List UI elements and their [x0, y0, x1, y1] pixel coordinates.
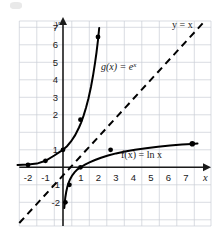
logarithm-label: f(x) = ln x — [121, 149, 162, 161]
x-tick-2: 2 — [96, 172, 101, 183]
y-tick-5: 5 — [53, 57, 58, 68]
axes — [19, 17, 211, 226]
y-tick-neg2: -2 — [52, 197, 60, 208]
figure-page: 7 6 5 4 3 2 1 -1 -2 -2 -1 1 2 3 4 5 6 7 — [0, 0, 217, 246]
x-tick-labels: -2 -1 1 2 3 4 5 6 7 — [24, 172, 189, 183]
graph-canvas: 7 6 5 4 3 2 1 -1 -2 -2 -1 1 2 3 4 5 6 7 — [0, 0, 217, 246]
y-axis-label: y — [54, 18, 60, 29]
point-exp-neg1 — [43, 158, 48, 163]
point-log-2 — [190, 141, 196, 147]
x-tick-5: 5 — [148, 172, 153, 183]
y-tick-neg1: -1 — [52, 179, 60, 190]
x-tick-neg1: -1 — [41, 172, 49, 183]
point-log-neg1 — [67, 182, 72, 187]
y-tick-2: 2 — [53, 109, 58, 120]
x-tick-neg2: -2 — [24, 172, 32, 183]
grid — [19, 21, 211, 226]
x-tick-4: 4 — [131, 172, 136, 183]
point-exp-2 — [96, 35, 101, 40]
exponential-log-graph: 7 6 5 4 3 2 1 -1 -2 -2 -1 1 2 3 4 5 6 7 — [0, 0, 217, 246]
y-tick-3: 3 — [53, 92, 58, 103]
x-axis-arrow — [203, 163, 211, 171]
point-log-0 — [78, 165, 83, 170]
exponential-label-exponent: x — [132, 61, 137, 69]
x-tick-7: 7 — [183, 172, 188, 183]
exponential-label-text: g(x) = e — [101, 61, 134, 73]
y-tick-1: 1 — [53, 144, 58, 155]
identity-line — [19, 23, 203, 223]
point-exp-0 — [61, 147, 66, 152]
point-log-neg2 — [63, 200, 68, 205]
x-axis-label: x — [202, 172, 208, 183]
exponential-label: g(x) = ex — [101, 61, 137, 74]
x-tick-6: 6 — [166, 172, 171, 183]
point-exp-neg2 — [26, 163, 31, 168]
x-tick-1: 1 — [78, 172, 83, 183]
x-tick-3: 3 — [113, 172, 118, 183]
y-tick-6: 6 — [53, 39, 58, 50]
point-log-1 — [108, 147, 113, 152]
identity-label: y = x — [172, 19, 193, 30]
y-tick-4: 4 — [53, 74, 58, 85]
point-exp-1 — [78, 117, 83, 122]
exponential-curve — [18, 28, 100, 165]
